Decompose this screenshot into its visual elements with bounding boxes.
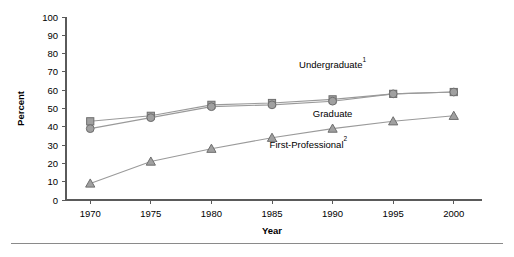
marker-first-professional-triangle [86, 179, 95, 187]
y-tick-label: 60 [47, 85, 58, 96]
y-axis-title: Percent [15, 90, 26, 126]
x-axis-title: Year [262, 225, 282, 236]
series-line-graduate [90, 92, 454, 129]
y-tick-label: 90 [47, 30, 58, 41]
x-tick-label: 1970 [80, 208, 101, 219]
chart-figure: 0102030405060708090100Percent19701975198… [0, 0, 514, 257]
marker-graduate-circle [147, 114, 155, 122]
y-tick-label: 10 [47, 176, 58, 187]
x-tick-label: 1990 [322, 208, 343, 219]
y-tick-label: 40 [47, 121, 58, 132]
series-annotation-undergraduate: Undergraduate1 [299, 55, 366, 70]
x-tick-label: 1985 [261, 208, 282, 219]
footer-divider [11, 243, 503, 244]
y-tick-label: 80 [47, 48, 58, 59]
marker-graduate-circle [208, 103, 216, 111]
series-annotation-graduate: Graduate [313, 108, 353, 119]
y-tick-label: 100 [42, 12, 58, 23]
x-tick-label: 1975 [140, 208, 161, 219]
y-tick-label: 30 [47, 140, 58, 151]
y-tick-label: 70 [47, 66, 58, 77]
x-tick-label: 1980 [201, 208, 222, 219]
marker-graduate-circle [329, 97, 337, 105]
marker-graduate-circle [268, 101, 276, 109]
series-annotation-first-professional: First-Professional2 [270, 135, 348, 150]
y-tick-label: 20 [47, 158, 58, 169]
marker-graduate-circle [450, 88, 458, 96]
x-tick-label: 1995 [383, 208, 404, 219]
marker-graduate-circle [86, 125, 94, 133]
marker-first-professional-triangle [449, 111, 458, 119]
marker-undergraduate-square [87, 118, 94, 125]
marker-graduate-circle [389, 90, 397, 98]
y-tick-label: 0 [53, 195, 58, 206]
x-tick-label: 2000 [443, 208, 464, 219]
line-chart: 0102030405060708090100Percent19701975198… [0, 0, 514, 257]
y-tick-label: 50 [47, 103, 58, 114]
